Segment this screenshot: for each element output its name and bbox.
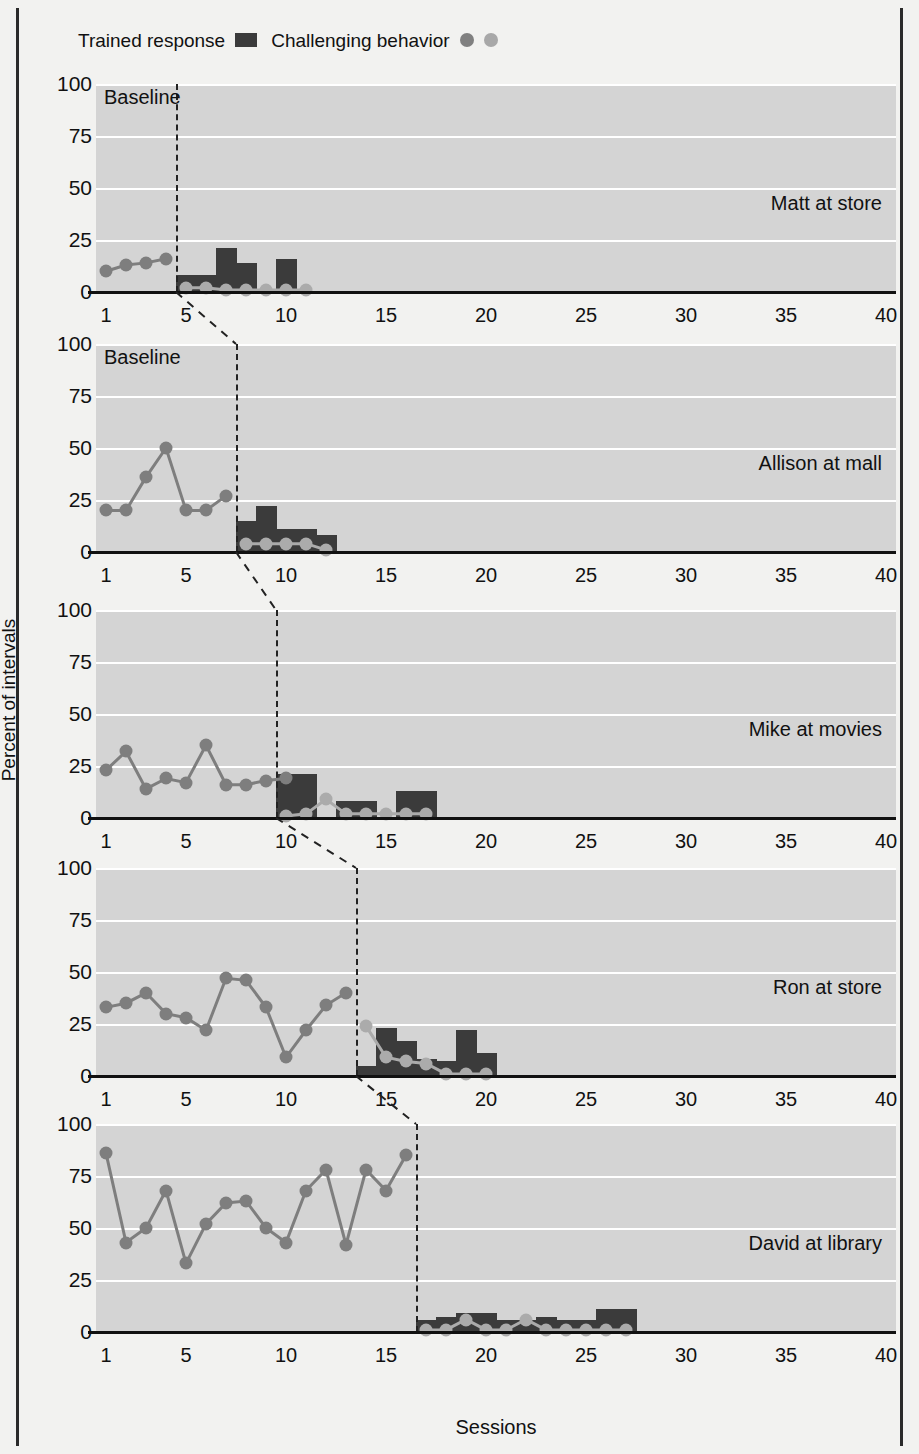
- x-tick-label: 30: [675, 304, 697, 327]
- panel-title: David at library: [749, 1232, 882, 1255]
- intervention-data-point: [600, 1323, 613, 1336]
- intervention-data-point: [420, 1057, 433, 1070]
- x-axis-ticks: 1510152025303540: [96, 830, 896, 860]
- x-tick-label: 10: [275, 830, 297, 853]
- y-tick-label: 100: [32, 72, 92, 96]
- panel-title: Matt at store: [771, 192, 882, 215]
- baseline-data-point: [180, 776, 193, 789]
- x-axis-ticks: 1510152025303540: [96, 304, 896, 334]
- baseline-data-point: [180, 1011, 193, 1024]
- y-tick-label: 75: [32, 650, 92, 674]
- x-tick-label: 25: [575, 1088, 597, 1111]
- baseline-data-point: [240, 778, 253, 791]
- baseline-data-point: [160, 252, 173, 265]
- y-tick-label: 50: [32, 960, 92, 984]
- y-tick-label: 75: [32, 908, 92, 932]
- x-tick-label: 40: [875, 830, 897, 853]
- baseline-data-point: [140, 782, 153, 795]
- baseline-data-point: [160, 1007, 173, 1020]
- intervention-data-point: [360, 1020, 373, 1033]
- intervention-data-point: [300, 283, 313, 296]
- baseline-data-point: [280, 1236, 293, 1249]
- phase-label-baseline: Baseline: [104, 86, 181, 109]
- x-tick-label: 10: [275, 1088, 297, 1111]
- baseline-data-point: [160, 442, 173, 455]
- intervention-data-point: [260, 537, 273, 550]
- baseline-data-point: [280, 1051, 293, 1064]
- x-tick-label: 1: [100, 1088, 111, 1111]
- y-tick-label: 0: [32, 280, 92, 304]
- x-axis-ticks: 1510152025303540: [96, 564, 896, 594]
- phase-change-line: [176, 84, 178, 292]
- y-tick-label: 0: [32, 806, 92, 830]
- x-tick-label: 20: [475, 1088, 497, 1111]
- circle-dark-icon: [460, 33, 474, 47]
- intervention-data-point: [440, 1067, 453, 1080]
- phase-change-line: [276, 610, 278, 818]
- baseline-data-point: [400, 1149, 413, 1162]
- x-tick-label: 10: [275, 564, 297, 587]
- y-tick-label: 25: [32, 754, 92, 778]
- x-tick-label: 35: [775, 304, 797, 327]
- x-axis-ticks: 1510152025303540: [96, 1344, 896, 1374]
- phase-change-line: [356, 868, 358, 1076]
- intervention-data-point: [280, 283, 293, 296]
- baseline-data-point: [340, 1238, 353, 1251]
- x-tick-label: 10: [275, 1344, 297, 1367]
- bar-swatch-icon: [235, 33, 257, 47]
- series-lines: [96, 868, 896, 1076]
- x-tick-label: 5: [180, 304, 191, 327]
- y-tick-label: 25: [32, 1012, 92, 1036]
- intervention-data-point: [280, 537, 293, 550]
- intervention-data-point: [480, 1067, 493, 1080]
- x-tick-label: 1: [100, 304, 111, 327]
- x-tick-label: 15: [375, 564, 397, 587]
- y-tick-label: 100: [32, 856, 92, 880]
- x-axis-line: [88, 1331, 896, 1334]
- plot-area: 0255075100BaselineAllison at mall: [96, 344, 896, 552]
- series-lines: [96, 610, 896, 818]
- y-tick-label: 50: [32, 176, 92, 200]
- baseline-data-point: [300, 1184, 313, 1197]
- series-lines: [96, 344, 896, 552]
- x-tick-label: 40: [875, 564, 897, 587]
- intervention-data-point: [240, 537, 253, 550]
- baseline-data-point: [100, 504, 113, 517]
- x-tick-label: 30: [675, 1344, 697, 1367]
- x-tick-label: 20: [475, 564, 497, 587]
- plot-area: 0255075100Mike at movies: [96, 610, 896, 818]
- baseline-data-point: [320, 999, 333, 1012]
- panel-title: Allison at mall: [759, 452, 882, 475]
- x-axis-ticks: 1510152025303540: [96, 1088, 896, 1118]
- x-tick-label: 40: [875, 1088, 897, 1111]
- x-tick-label: 30: [675, 564, 697, 587]
- x-tick-label: 20: [475, 830, 497, 853]
- intervention-data-point: [420, 1323, 433, 1336]
- baseline-data-point: [100, 764, 113, 777]
- x-tick-label: 20: [475, 1344, 497, 1367]
- baseline-data-point: [280, 772, 293, 785]
- y-tick-label: 0: [32, 1320, 92, 1344]
- intervention-data-point: [440, 1323, 453, 1336]
- x-tick-label: 30: [675, 830, 697, 853]
- intervention-data-point: [500, 1323, 513, 1336]
- baseline-data-point: [240, 1194, 253, 1207]
- intervention-data-point: [520, 1313, 533, 1326]
- baseline-data-point: [300, 1024, 313, 1037]
- x-tick-label: 10: [275, 304, 297, 327]
- intervention-data-point: [480, 1323, 493, 1336]
- baseline-data-point: [220, 778, 233, 791]
- baseline-data-point: [120, 258, 133, 271]
- panel-david-at-library: 0255075100David at library15101520253035…: [96, 1124, 896, 1332]
- baseline-data-point: [200, 1024, 213, 1037]
- legend-item-trained-response: Trained response: [78, 31, 257, 50]
- x-tick-label: 20: [475, 304, 497, 327]
- baseline-data-point: [320, 1163, 333, 1176]
- baseline-data-point: [260, 774, 273, 787]
- intervention-data-point: [300, 537, 313, 550]
- x-tick-label: 30: [675, 1088, 697, 1111]
- x-tick-label: 5: [180, 830, 191, 853]
- x-axis-line: [88, 1075, 896, 1078]
- intervention-data-point: [400, 1055, 413, 1068]
- baseline-data-point: [200, 1217, 213, 1230]
